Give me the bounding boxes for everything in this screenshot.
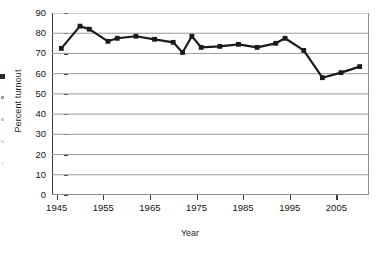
x-tick-label: 1985 — [223, 202, 263, 213]
x-tick-mark — [197, 195, 198, 200]
edge-mark-icon — [1, 140, 4, 143]
y-tick-label: 20 — [16, 150, 46, 160]
data-point-marker — [301, 48, 306, 53]
data-point-marker — [189, 34, 194, 39]
x-tick-mark — [150, 195, 151, 200]
x-tick-label: 1955 — [83, 202, 123, 213]
x-tick-mark — [103, 195, 104, 200]
x-tick-label: 1945 — [37, 202, 77, 213]
data-point-marker — [217, 44, 222, 49]
x-tick-mark — [57, 195, 58, 200]
data-point-marker — [180, 50, 185, 55]
data-point-marker — [134, 34, 139, 39]
data-point-marker — [357, 64, 362, 69]
chart-canvas — [52, 13, 369, 195]
edge-mark-icon — [1, 96, 4, 99]
series-line — [61, 26, 359, 78]
data-point-marker — [59, 46, 64, 51]
x-tick-label: 1995 — [270, 202, 310, 213]
data-point-marker — [171, 40, 176, 45]
x-tick-label: 1965 — [130, 202, 170, 213]
data-point-marker — [87, 27, 92, 32]
x-tick-mark — [243, 195, 244, 200]
x-axis-title: Year — [0, 228, 380, 238]
x-tick-mark — [336, 195, 337, 200]
data-point-marker — [78, 24, 83, 29]
turnout-line-chart: Percent turnout 0102030405060708090 1945… — [0, 0, 380, 256]
y-tick-label: 90 — [16, 8, 46, 18]
y-tick-label: 40 — [16, 109, 46, 119]
data-point-marker — [273, 41, 278, 46]
data-point-marker — [320, 75, 325, 80]
y-tick-label: 0 — [16, 190, 46, 200]
edge-mark-icon — [1, 162, 4, 165]
x-tick-label: 1975 — [177, 202, 217, 213]
data-point-marker — [199, 45, 204, 50]
y-axis-ticks: 0102030405060708090 — [14, 13, 46, 195]
data-point-marker — [106, 39, 111, 44]
y-tick-label: 50 — [16, 89, 46, 99]
data-point-marker — [255, 45, 260, 50]
edge-mark-icon — [1, 118, 4, 121]
y-tick-label: 70 — [16, 48, 46, 58]
y-tick-label: 10 — [16, 170, 46, 180]
y-tick-label: 30 — [16, 129, 46, 139]
data-point-marker — [236, 42, 241, 47]
y-tick-label: 60 — [16, 69, 46, 79]
plot-area — [52, 13, 369, 195]
x-axis-ticks: 1945195519651975198519952005 — [52, 195, 369, 225]
data-point-marker — [339, 70, 344, 75]
page-edge-marks — [0, 0, 10, 256]
y-tick-label: 80 — [16, 28, 46, 38]
data-point-marker — [283, 36, 288, 41]
x-tick-label: 2005 — [316, 202, 356, 213]
x-tick-mark — [290, 195, 291, 200]
edge-mark-icon — [0, 74, 5, 79]
data-point-marker — [115, 36, 120, 41]
data-point-marker — [152, 37, 157, 42]
